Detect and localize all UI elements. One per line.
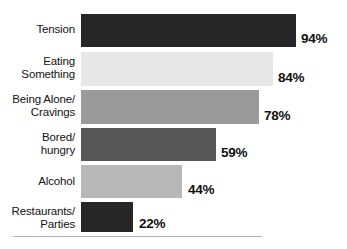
bar-value-label: 78% — [264, 108, 290, 123]
bar-value-label: 94% — [301, 31, 327, 46]
bar-value-label: 84% — [278, 70, 304, 85]
bar-track — [81, 90, 259, 124]
bar-category-label: Restaurants/ Parties — [0, 205, 75, 230]
bar-track — [81, 165, 182, 198]
bar-track — [81, 52, 273, 86]
bar-fill — [81, 90, 259, 124]
bar-category-label: Eating Something — [0, 55, 75, 80]
bar-fill — [81, 202, 133, 232]
bar-value-label: 22% — [139, 216, 165, 231]
bar-value-label: 44% — [188, 182, 214, 197]
bar-value-label: 59% — [221, 145, 247, 160]
bar-category-label: Bored/ hungry — [0, 131, 75, 156]
bar-category-label: Alcohol — [0, 175, 75, 188]
bar-fill — [81, 128, 216, 161]
baseline-rule — [13, 236, 262, 237]
bar-track — [81, 202, 133, 232]
bar-track — [81, 14, 296, 47]
bar-fill — [81, 14, 296, 47]
bar-fill — [81, 52, 273, 86]
bar-category-label: Tension — [0, 23, 75, 36]
horizontal-bar-chart: Tension 94% Eating Something 84% Being A… — [0, 0, 347, 249]
bar-fill — [81, 165, 182, 198]
bar-track — [81, 128, 216, 161]
bar-category-label: Being Alone/ Cravings — [0, 93, 75, 118]
